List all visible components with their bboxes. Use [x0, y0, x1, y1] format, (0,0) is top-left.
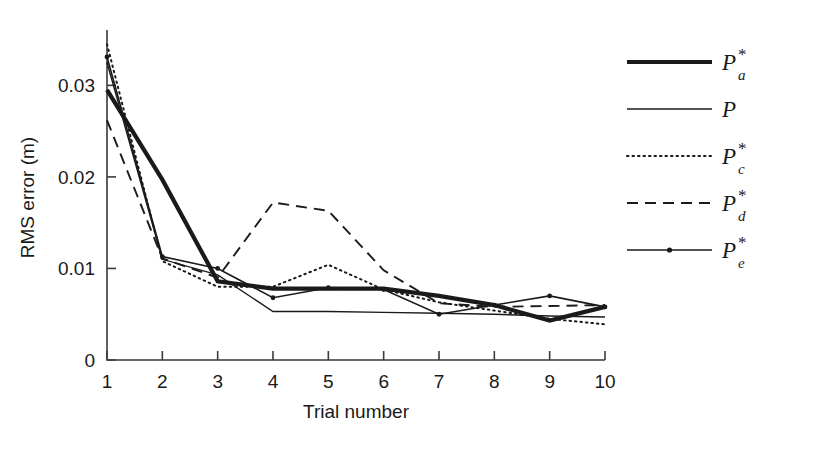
series-marker-dot: [215, 266, 220, 271]
x-tick-label: 2: [157, 371, 168, 392]
legend-label-P-a-star: P: [721, 50, 736, 75]
x-tick-label: 3: [212, 371, 223, 392]
legend-swatch-marker: [667, 247, 672, 252]
legend-superscript-P-a-star: *: [738, 45, 747, 64]
legend-superscript-P-d-star: *: [738, 186, 747, 205]
legend-superscript-P-e-star: *: [738, 233, 747, 252]
y-tick-label: 0.01: [58, 258, 95, 279]
x-tick-label: 1: [102, 371, 113, 392]
series-marker-dot: [160, 254, 165, 259]
x-tick-label: 6: [378, 371, 389, 392]
series-line-pa: [107, 90, 605, 321]
series-marker-dot: [547, 294, 552, 299]
axis-group: [107, 30, 605, 360]
legend-group: Pa*PPc*Pd*Pe*: [627, 45, 747, 271]
tick-label-group: 00.010.020.0312345678910: [58, 75, 616, 392]
series-marker-dot: [437, 312, 442, 317]
y-tick-label: 0.03: [58, 75, 95, 96]
rms-error-line-chart: 00.010.020.0312345678910 Trial numberRMS…: [0, 0, 816, 449]
y-axis-title: RMS error (m): [17, 137, 38, 258]
series-marker-dot: [381, 287, 386, 292]
x-tick-label: 4: [268, 371, 279, 392]
series-marker-dot: [271, 295, 276, 300]
x-tick-label: 8: [489, 371, 500, 392]
data-series-group: [105, 44, 608, 324]
series-line-pc: [107, 44, 605, 324]
legend-label-P-e-star: P: [721, 238, 736, 263]
legend-label-P-d-star: P: [721, 191, 736, 216]
legend-subscript-P-d-star: d: [738, 208, 746, 224]
x-tick-label: 5: [323, 371, 334, 392]
y-tick-label: 0.02: [58, 167, 95, 188]
legend-subscript-P-c-star: c: [738, 161, 745, 177]
x-tick-label: 7: [434, 371, 445, 392]
legend-label-P-plain: P: [721, 97, 736, 122]
legend-subscript-P-a-star: a: [738, 67, 746, 83]
y-tick-label: 0: [84, 350, 95, 371]
series-line-p: [107, 62, 605, 317]
x-tick-label: 9: [544, 371, 555, 392]
legend-subscript-P-e-star: e: [738, 255, 745, 271]
series-marker-dot: [492, 303, 497, 308]
series-marker-dot: [326, 285, 331, 290]
series-marker-dot: [105, 55, 110, 60]
series-line-pe: [107, 57, 605, 314]
legend-superscript-P-c-star: *: [738, 139, 747, 158]
figure-container: 00.010.020.0312345678910 Trial numberRMS…: [0, 0, 816, 449]
x-tick-label: 10: [594, 371, 615, 392]
x-axis-title: Trial number: [303, 401, 410, 422]
series-marker-dot: [603, 305, 608, 310]
legend-label-P-c-star: P: [721, 144, 736, 169]
